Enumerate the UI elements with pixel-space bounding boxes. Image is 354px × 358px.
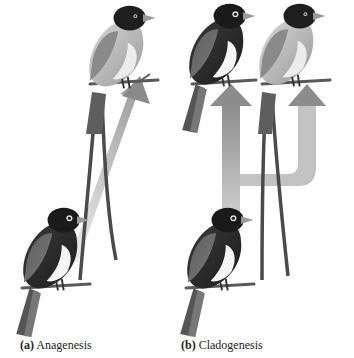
- caption-b-title: Cladogenesis: [199, 338, 263, 352]
- caption-b-letter: (b): [181, 338, 196, 352]
- caption-a-letter: (a): [20, 338, 34, 352]
- ancestor-bird-cladogenesis: [180, 208, 254, 337]
- panel-a-anagenesis: [16, 6, 158, 337]
- caption-anagenesis: (a) Anagenesis: [20, 338, 92, 353]
- descendant-bird-pale-cladogenesis: [258, 4, 330, 280]
- caption-cladogenesis: (b) Cladogenesis: [181, 338, 263, 353]
- descendant-bird-dark-cladogenesis: [182, 4, 256, 133]
- caption-a-title: Anagenesis: [36, 338, 91, 352]
- panel-b-cladogenesis: [180, 4, 330, 337]
- anagenesis-arrow: [68, 76, 150, 262]
- evolution-figure: [0, 0, 354, 358]
